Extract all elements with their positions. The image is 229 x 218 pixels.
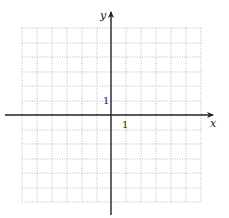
y-tick-label: 1: [103, 95, 109, 106]
coordinate-plane: x y 1 1: [0, 0, 229, 218]
x-tick-label: 1: [122, 119, 128, 130]
y-axis-label: y: [99, 9, 107, 22]
x-axis-label: x: [210, 117, 217, 130]
